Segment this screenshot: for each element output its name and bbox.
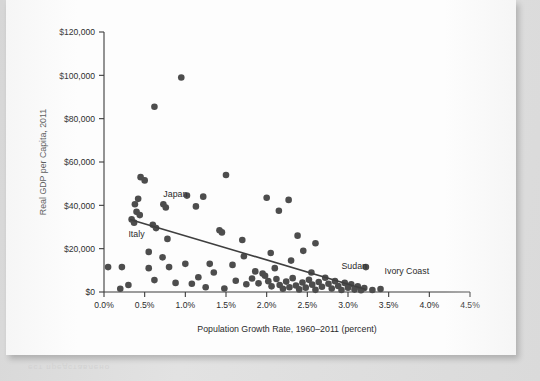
data-point [193,203,200,210]
data-point [252,268,259,275]
scatter-chart: $0$20,000$40,000$60,000$80,000$100,000$1… [6,0,516,355]
data-point [141,177,148,184]
data-point [178,74,185,81]
data-point [211,269,218,276]
data-point [219,229,226,236]
data-point [145,265,152,272]
page-background: $0$20,000$40,000$60,000$80,000$100,000$1… [0,0,540,381]
data-point [285,197,292,204]
page-bleedthrough-text: ест представлено [28,358,308,372]
data-point [272,265,279,272]
data-point [377,286,384,293]
data-point [221,285,228,292]
data-point [229,262,236,269]
book-page-panel: $0$20,000$40,000$60,000$80,000$100,000$1… [6,0,516,355]
annotation-label: Ivory Coast [385,266,430,276]
annotation-label: Italy [128,229,145,239]
data-point [125,282,132,289]
data-point [189,280,196,287]
data-point [283,278,290,285]
data-point [132,201,139,208]
data-point [302,284,309,291]
data-point [328,285,335,292]
data-point [267,250,274,257]
data-point [338,287,345,294]
x-tick-label: 0.5% [135,300,155,310]
x-tick-label: 4.5% [460,300,480,310]
data-point [145,249,152,256]
data-point [151,277,158,284]
data-point [255,280,262,287]
data-point [232,277,239,284]
y-axis-title: Real GDP per Capita, 2011 [38,109,48,215]
annotation-label: Japan [163,189,187,199]
data-point [319,284,326,291]
data-point [369,287,376,294]
data-point [163,204,170,211]
data-point [151,103,158,110]
data-point [117,285,124,292]
data-point [200,193,207,200]
data-point [263,194,270,201]
y-tick-label: $20,000 [64,244,95,254]
data-point [296,286,303,293]
data-point [159,254,166,261]
data-point [286,284,293,291]
x-tick-label: 2.5% [298,300,318,310]
data-point [136,212,143,219]
data-point [164,236,171,243]
y-tick-label: $0 [85,287,95,297]
data-point [182,261,189,268]
data-point [105,264,112,271]
x-tick-label: 1.0% [176,300,196,310]
x-tick-label: 3.0% [338,300,358,310]
data-point [273,276,280,283]
data-point [172,280,179,287]
data-point [312,287,319,294]
y-tick-label: $80,000 [64,114,95,124]
data-point [243,281,250,288]
data-point [202,284,209,291]
data-point [294,232,301,239]
y-tick-label: $120,000 [59,27,95,37]
data-point [223,172,230,179]
data-point [166,264,173,271]
x-tick-label: 3.5% [379,300,399,310]
y-tick-label: $40,000 [64,201,95,211]
data-point [249,275,256,282]
data-point [288,257,295,264]
trend-line [130,219,366,289]
x-tick-label: 2.0% [257,300,277,310]
data-point [289,275,296,282]
y-tick-label: $100,000 [59,71,95,81]
data-point [300,248,307,255]
x-tick-label: 1.5% [216,300,236,310]
data-point [280,285,287,292]
y-tick-label: $60,000 [64,157,95,167]
data-point [276,207,283,214]
x-tick-label: 4.0% [420,300,440,310]
data-point [268,283,275,290]
data-point [206,261,213,268]
x-axis-title: Population Growth Rate, 1960–2011 (perce… [197,324,376,334]
data-point [312,240,319,247]
data-point [119,264,126,271]
data-point [195,274,202,281]
data-point [239,237,246,244]
annotation-label: Sudan [341,261,367,271]
x-tick-label: 0.0% [94,300,114,310]
